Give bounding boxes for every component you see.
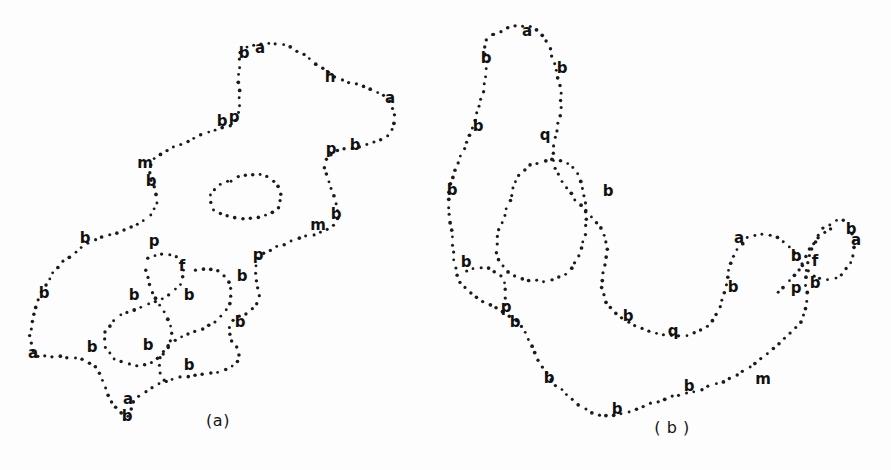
contour-dot [628, 411, 631, 414]
contour-dot [472, 267, 475, 270]
contour-dot [225, 214, 228, 217]
contour-dot [193, 373, 197, 377]
point-label-b: b [544, 369, 555, 387]
contour-dot [166, 317, 170, 321]
contour-dot [255, 264, 258, 267]
contour-dot [179, 143, 182, 146]
point-label-p: p [229, 108, 240, 126]
point-label-b: b [350, 136, 361, 154]
contour-dot [561, 180, 564, 183]
contour-dot [584, 210, 588, 214]
contour-dot [274, 42, 277, 45]
contour-dot [167, 293, 170, 296]
contour-dot [32, 313, 36, 317]
contour-dot [753, 234, 756, 237]
contour-dot [108, 324, 112, 328]
contour-dot [256, 286, 259, 289]
contour-dot [584, 408, 587, 411]
contour-dot [520, 277, 524, 281]
point-label-b: b [791, 247, 802, 265]
contour-dot [573, 199, 576, 202]
contour-dot [777, 291, 780, 294]
contour-dot [236, 80, 240, 84]
contour-dot [741, 370, 744, 373]
dotted-contour-figure: bahabppbmbbmbpfpbbbbabbbbab(a)abbbqbbbab… [0, 0, 891, 470]
contour-dot [582, 194, 585, 197]
contour-dot [557, 275, 560, 278]
contour-dot [566, 162, 569, 165]
contour-dot [448, 213, 451, 216]
contour-dot [455, 273, 459, 277]
contour-dot [599, 226, 603, 230]
contour-dot [159, 153, 163, 157]
contour-dot [556, 122, 559, 125]
contour-dot [585, 217, 589, 221]
contour-dot [793, 273, 797, 277]
contour-dot [48, 278, 51, 281]
contour-dot [781, 286, 785, 290]
contour-dot [347, 81, 350, 84]
contour-dot [174, 288, 177, 291]
contour-dot [749, 366, 752, 369]
contour-dot [550, 278, 553, 281]
contour-dot [663, 397, 667, 401]
contour-dot [332, 224, 335, 227]
contour-dot [94, 365, 98, 369]
contour-dot [481, 300, 484, 303]
contour-dot [341, 78, 344, 81]
contour-dot [821, 226, 824, 229]
panels-layer: bahabppbmbbmbpfpbbbbabbbbab(a)abbbqbbbab… [28, 22, 861, 437]
contour-dot [535, 162, 538, 165]
contour-dot [475, 111, 478, 114]
contour-dot [379, 138, 383, 142]
point-label-p: p [149, 232, 160, 250]
contour-inner-hole-loop [209, 173, 282, 221]
contour-dot [788, 331, 791, 334]
contour-dot [590, 216, 593, 219]
contour-dot [169, 325, 172, 328]
contour-dot [226, 180, 229, 183]
contour-dot [259, 173, 262, 176]
contour-dot [699, 328, 702, 331]
contour-dot [255, 279, 258, 282]
contour-dot [110, 400, 113, 403]
point-label-b: b [510, 313, 521, 331]
contour-dot [271, 211, 275, 215]
contour-dot [452, 258, 455, 261]
point-label-b: b [184, 356, 195, 374]
contour-dot [143, 363, 147, 367]
point-label-b: b [623, 307, 634, 325]
contour-dot [174, 339, 177, 342]
contour-dot [700, 388, 703, 391]
contour-dot [276, 184, 280, 188]
contour-dot [840, 273, 843, 276]
contour-dot [175, 255, 178, 258]
contour-dot [135, 364, 138, 367]
contour-dot [475, 296, 479, 300]
contour-dot [251, 173, 255, 177]
contour-dot [558, 114, 562, 118]
contour-dot [88, 361, 92, 365]
contour-dot [161, 297, 164, 300]
contour-dot [128, 362, 131, 365]
contour-dot [103, 330, 106, 333]
contour-dot [238, 66, 241, 69]
contour-dot [671, 394, 674, 397]
contour-dot [576, 403, 580, 407]
point-label-m: m [310, 216, 326, 234]
contour-dot [209, 201, 212, 204]
contour-dot [828, 224, 831, 227]
contour-dot [580, 246, 584, 250]
contour-dot [804, 275, 808, 279]
contour-dot [816, 236, 820, 240]
contour-dot [503, 281, 506, 284]
contour-dot [209, 267, 213, 271]
contour-dot [365, 143, 368, 146]
contour-dot [560, 106, 563, 109]
contour-dot [570, 266, 574, 270]
contour-dot [119, 313, 122, 316]
contour-dot [581, 240, 584, 243]
contour-dot [777, 342, 781, 346]
contour-dot [147, 302, 150, 305]
contour-dot [129, 225, 133, 229]
